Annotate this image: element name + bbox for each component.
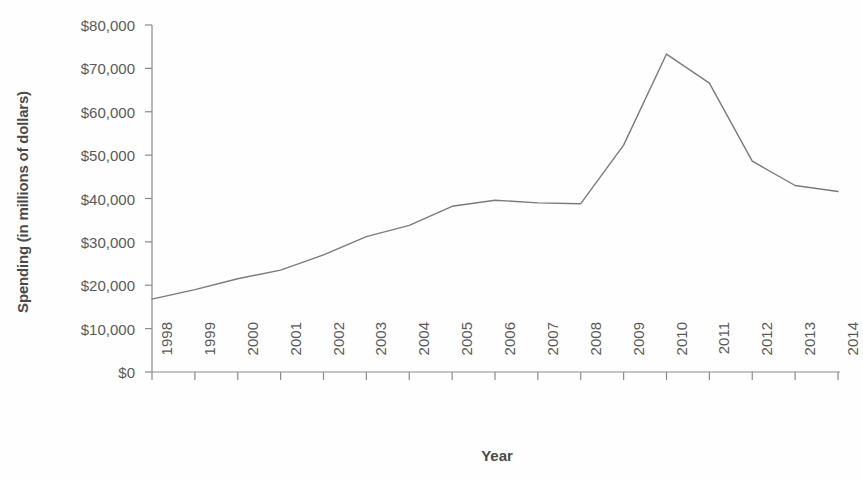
chart-figure: Spending (in millions of dollars) $0$10,… (0, 0, 863, 480)
x-tick-label: 2012 (758, 322, 775, 382)
x-tick-label: 2007 (544, 322, 561, 382)
x-tick-label: 2008 (587, 322, 604, 382)
x-tick-label: 2001 (287, 322, 304, 382)
x-tick-label: 2005 (458, 322, 475, 382)
x-tick-label: 2003 (372, 322, 389, 382)
x-tick-label: 2011 (715, 322, 732, 382)
x-tick-label: 2010 (673, 322, 690, 382)
x-axis-tick-labels: 1998199920002001200220032004200520062007… (0, 0, 863, 480)
x-tick-label: 2000 (244, 322, 261, 382)
x-tick-label: 1998 (158, 322, 175, 382)
x-axis-title: Year (152, 447, 842, 464)
x-tick-label: 2002 (330, 322, 347, 382)
x-tick-label: 1999 (201, 322, 218, 382)
x-tick-label: 2004 (415, 322, 432, 382)
x-tick-label: 2009 (630, 322, 647, 382)
x-tick-label: 2013 (801, 322, 818, 382)
x-tick-label: 2006 (501, 322, 518, 382)
x-tick-label: 2014 (844, 322, 861, 382)
